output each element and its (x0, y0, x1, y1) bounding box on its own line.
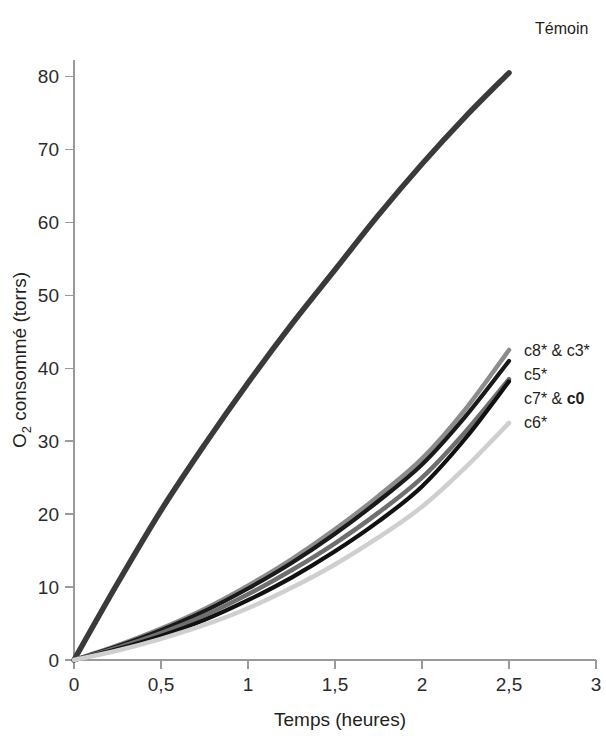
y-tick-label: 30 (38, 431, 59, 452)
y-axis-title-subscript: 2 (19, 426, 34, 433)
x-tick-label: 0 (69, 674, 80, 695)
x-tick-label: 1 (243, 674, 254, 695)
x-tick-label: 3 (591, 674, 602, 695)
y-axis-title: O2 consommé (torrs) (9, 272, 34, 448)
chart-figure: 01020304050607080 00,511,522,53 Témoinc8… (0, 0, 606, 736)
y-tick-label: 70 (38, 139, 59, 160)
curve-series-2 (74, 361, 509, 660)
y-tick-label: 20 (38, 504, 59, 525)
y-axis-title-lead: O (9, 433, 30, 448)
x-axis: 00,511,522,53 (69, 660, 602, 695)
y-tick-label: 0 (48, 650, 59, 671)
svg-text:O2 consommé (torrs): O2 consommé (torrs) (9, 272, 34, 448)
x-tick-label: 2,5 (496, 674, 522, 695)
series-labels: Témoinc8* & c3*c5*c7* & c0c6* (524, 20, 590, 431)
x-tick-label: 1,5 (322, 674, 348, 695)
y-tick-label: 80 (38, 66, 59, 87)
y-tick-label: 10 (38, 577, 59, 598)
data-curves (74, 73, 509, 660)
x-tick-label: 0,5 (148, 674, 174, 695)
y-axis: 01020304050607080 (38, 60, 74, 671)
series-label-2: c5* (524, 366, 547, 383)
x-axis-title: Temps (heures) (274, 709, 406, 730)
y-axis-title-rest: consommé (torrs) (9, 272, 30, 426)
curve-series-4 (74, 381, 509, 660)
y-tick-label: 60 (38, 212, 59, 233)
curve-series-1 (74, 350, 509, 660)
series-label-0: Témoin (535, 20, 588, 37)
series-label-5: c6* (524, 414, 547, 431)
x-tick-label: 2 (417, 674, 428, 695)
oxygen-consumption-line-chart: 01020304050607080 00,511,522,53 Témoinc8… (0, 0, 606, 736)
y-tick-label: 40 (38, 358, 59, 379)
series-label-1: c8* & c3* (524, 342, 590, 359)
series-label-3: c7* & c0 (524, 390, 585, 407)
curve-series-3 (74, 379, 509, 660)
y-tick-label: 50 (38, 285, 59, 306)
